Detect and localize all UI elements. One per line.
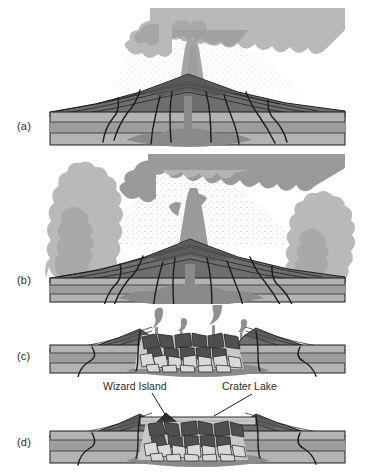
callout-crater-lake: Crater Lake [222,380,277,392]
panel-b-illustration [0,152,368,304]
panel-c-label: (c) [17,350,30,362]
panel-d-illustration [0,376,368,475]
collapse-breccia-d [138,421,248,461]
callout-wizard-island: Wizard Island [103,380,167,392]
panel-b-label: (b) [17,274,31,286]
panel-d: (d) Wizard Island Crater Lake [0,376,368,475]
collapse-breccia-c [134,333,244,372]
panel-a: (a) [0,0,368,150]
panel-d-label: (d) [17,436,31,448]
crater-lake-formation-figure: (a) [0,0,368,475]
panel-c-illustration [0,305,368,377]
composite-cone-a [50,74,345,117]
panel-a-illustration [0,0,368,150]
callout-leaders-d [152,393,252,416]
panel-b: (b) [0,152,368,304]
panel-a-label: (a) [17,120,31,132]
panel-c: (c) [0,305,368,377]
